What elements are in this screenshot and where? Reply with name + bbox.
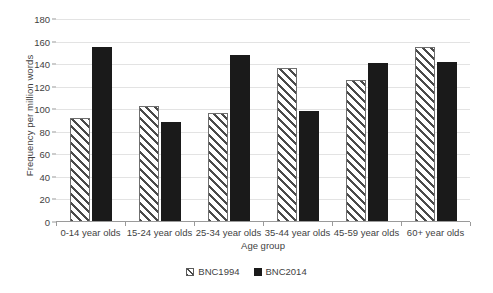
x-axis-tick-label: 25-34 year olds [194,227,263,238]
bar-bnc1994 [346,80,366,222]
plot-area: 0204060801001201401601800-14 year olds15… [56,19,470,222]
x-tick-mark [56,222,57,226]
bar-bnc2014 [437,62,457,222]
x-axis-tick-label: 45-59 year olds [332,227,401,238]
y-axis-tick-label: 140 [10,59,50,70]
y-axis-tick-label: 100 [10,104,50,115]
legend-label: BNC1994 [198,266,239,277]
bar-group: 60+ year olds [401,19,470,222]
bar-bnc1994 [415,47,435,222]
bar-bnc2014 [368,63,388,222]
x-axis-line [56,221,470,222]
bar-bnc1994 [277,68,297,223]
bar-bnc2014 [161,122,181,222]
bar-bnc1994 [139,106,159,222]
bar-group: 45-59 year olds [332,19,401,222]
legend-swatch-icon [254,268,262,276]
x-axis-tick-label: 35-44 year olds [263,227,332,238]
bar-bnc2014 [92,47,112,222]
plot-inner: 0204060801001201401601800-14 year olds15… [56,19,470,222]
bar-bnc2014 [230,55,250,222]
x-tick-mark [125,222,126,226]
x-tick-mark [263,222,264,226]
x-tick-mark [194,222,195,226]
x-axis-title: Age group [56,240,470,251]
y-axis-tick-label: 40 [10,171,50,182]
y-axis-tick-label: 180 [10,14,50,25]
bar-bnc1994 [208,113,228,222]
y-axis-tick-label: 20 [10,194,50,205]
bar-bnc1994 [70,118,90,222]
y-axis-tick-label: 80 [10,126,50,137]
x-tick-mark [401,222,402,226]
bar-group: 35-44 year olds [263,19,332,222]
bar-bnc2014 [299,111,319,222]
x-axis-tick-label: 0-14 year olds [56,227,125,238]
y-axis-tick-label: 160 [10,36,50,47]
chart-legend: BNC1994BNC2014 [0,266,493,277]
y-axis-tick-label: 120 [10,81,50,92]
y-axis-tick-label: 60 [10,149,50,160]
legend-label: BNC2014 [266,266,307,277]
x-tick-mark [332,222,333,226]
legend-swatch-icon [186,268,194,276]
x-tick-mark [470,222,471,226]
bar-group: 15-24 year olds [125,19,194,222]
legend-item-bnc1994[interactable]: BNC1994 [186,266,239,277]
legend-item-bnc2014[interactable]: BNC2014 [254,266,307,277]
y-axis-tick-label: 0 [10,217,50,228]
x-axis-tick-label: 15-24 year olds [125,227,194,238]
x-axis-tick-label: 60+ year olds [401,227,470,238]
bar-chart: Frequency per million words 020406080100… [0,0,493,293]
bar-group: 0-14 year olds [56,19,125,222]
bar-group: 25-34 year olds [194,19,263,222]
